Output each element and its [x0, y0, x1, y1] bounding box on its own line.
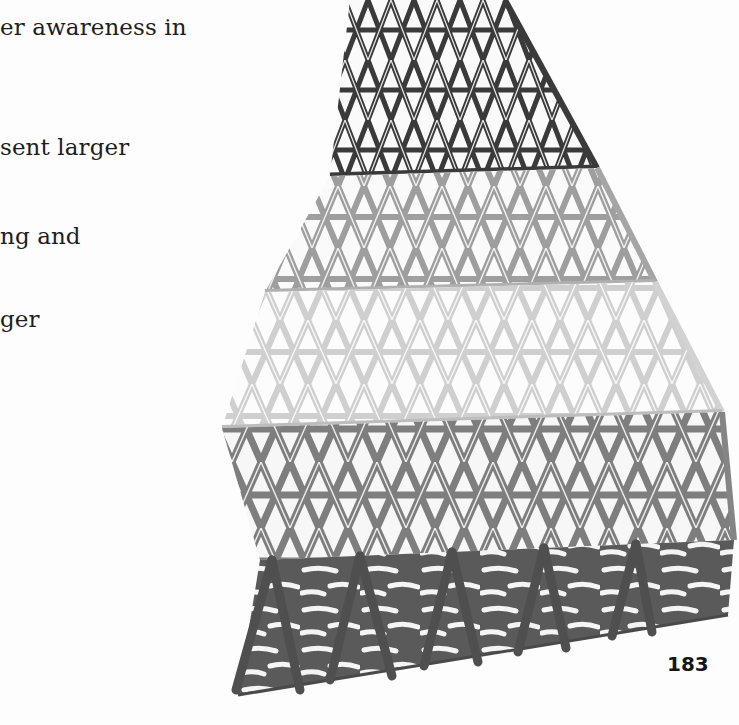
base-band	[236, 540, 734, 695]
apex-band	[330, 0, 597, 176]
upper-band	[265, 168, 655, 292]
lattice-pyramid-figure	[0, 0, 739, 725]
lower-band	[222, 412, 734, 560]
page-number: 183	[667, 652, 709, 676]
book-page: er awareness in sent larger ng and ger	[0, 0, 739, 725]
middle-band	[222, 282, 722, 428]
